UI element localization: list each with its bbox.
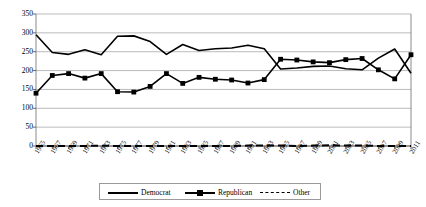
x-axis-tick-label: 2007 [375,139,389,155]
x-axis-tick-label: 1977 [130,139,144,155]
x-axis-tick-label: 1981 [163,139,177,155]
x-axis-tick-label: 2001 [326,139,340,155]
x-axis-tick-labels: 1965196719691971197319751977197919811983… [0,0,426,207]
x-axis-tick-label: 1985 [196,139,210,155]
legend-swatch-icon [185,188,215,197]
x-axis-tick-label: 1979 [147,139,161,155]
legend-entry-democrat[interactable]: Democrat [108,187,171,198]
line-chart: 050100150200250300350 196519671969197119… [0,0,426,207]
x-axis-tick-label: 1969 [65,139,79,155]
chart-legend: DemocratRepublicanOther [99,183,321,200]
x-axis-tick-label: 2005 [359,139,373,155]
x-axis-tick-label: 1975 [114,139,128,155]
legend-entry-republican[interactable]: Republican [185,187,252,198]
x-axis-tick-label: 1995 [277,139,291,155]
x-axis-tick-label: 2009 [391,139,405,155]
legend-swatch-icon [108,188,138,197]
legend-label: Other [293,188,310,197]
x-axis-tick-label: 1971 [81,139,95,155]
legend-entry-other[interactable]: Other [260,187,310,198]
x-axis-tick-label: 1999 [310,139,324,155]
x-axis-tick-label: 1967 [49,139,63,155]
legend-label: Republican [218,188,252,197]
legend-swatch-icon [260,188,290,197]
x-axis-tick-label: 2003 [342,139,356,155]
x-axis-tick-label: 1983 [179,139,193,155]
x-axis-tick-label: 1987 [212,139,226,155]
legend-label: Democrat [141,188,171,197]
x-axis-tick-label: 1973 [98,139,112,155]
x-axis-tick-label: 2011 [408,139,422,155]
x-axis-tick-label: 1965 [33,139,47,155]
x-axis-tick-label: 1989 [228,139,242,155]
legend-line-icon [108,192,138,194]
x-axis-tick-label: 1993 [261,139,275,155]
legend-square-marker-icon [197,190,203,196]
legend-line-icon [260,192,290,193]
x-axis-tick-label: 1991 [244,139,258,155]
x-axis-tick-label: 1997 [293,139,307,155]
